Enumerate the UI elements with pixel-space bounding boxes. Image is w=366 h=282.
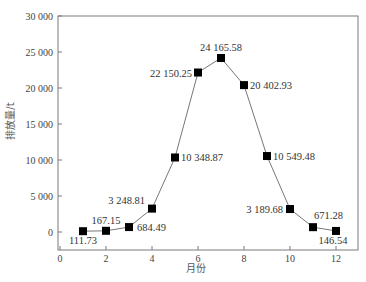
data-marker — [332, 227, 340, 235]
data-marker — [263, 152, 271, 160]
data-label: 3 248.81 — [108, 195, 145, 206]
x-tick-label: 12 — [331, 253, 341, 264]
data-markers — [79, 54, 340, 235]
x-tick-label: 2 — [104, 253, 109, 264]
x-axis: 024681012 — [58, 246, 342, 264]
y-tick-label: 30 000 — [26, 11, 54, 22]
data-label: 20 402.93 — [250, 80, 292, 91]
data-label: 10 348.87 — [181, 152, 223, 163]
data-marker — [286, 205, 294, 213]
data-marker — [240, 81, 248, 89]
x-tick-label: 0 — [58, 253, 63, 264]
x-axis-title: 月份 — [186, 263, 206, 274]
data-label: 10 549.48 — [273, 151, 315, 162]
data-marker — [194, 69, 202, 77]
data-marker — [125, 223, 133, 231]
data-marker — [102, 227, 110, 235]
data-label: 111.73 — [69, 235, 97, 246]
data-label: 671.28 — [314, 210, 343, 221]
y-tick-label: 25 000 — [26, 47, 54, 58]
y-tick-label: 15 000 — [26, 119, 54, 130]
data-marker — [171, 153, 179, 161]
data-label: 22 150.25 — [150, 68, 192, 79]
y-axis-title: 排放量/t — [4, 102, 16, 139]
data-marker — [217, 54, 225, 62]
y-axis: 05 00010 00015 00020 00025 00030 000 — [26, 11, 63, 238]
data-label: 146.54 — [319, 235, 349, 246]
y-tick-label: 20 000 — [26, 83, 54, 94]
data-label: 167.15 — [92, 215, 121, 226]
x-tick-label: 4 — [150, 253, 155, 264]
data-label: 3 189.68 — [246, 204, 283, 215]
y-tick-label: 10 000 — [26, 155, 54, 166]
data-marker — [79, 227, 87, 235]
x-tick-label: 8 — [242, 253, 247, 264]
data-marker — [148, 205, 156, 213]
data-marker — [309, 223, 317, 231]
data-label: 684.49 — [137, 222, 166, 233]
y-tick-label: 5 000 — [31, 191, 54, 202]
data-label: 24 165.58 — [200, 42, 242, 53]
x-tick-label: 10 — [285, 253, 295, 264]
line-chart: 05 00010 00015 00020 00025 00030 000 024… — [0, 0, 366, 282]
y-tick-label: 0 — [48, 227, 53, 238]
data-labels: 111.73167.15684.493 248.8110 348.8722 15… — [69, 42, 348, 246]
